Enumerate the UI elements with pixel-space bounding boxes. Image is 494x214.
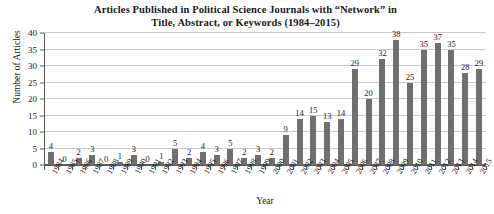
bar	[435, 43, 441, 165]
bar-slot: 2	[237, 33, 251, 165]
bar-slot: 29	[472, 33, 486, 165]
bar-slot: 1	[155, 33, 169, 165]
bar-value-label: 5	[228, 138, 232, 148]
bar	[407, 83, 413, 166]
x-axis-tick-mark	[362, 166, 363, 170]
x-axis-tick-mark	[72, 166, 73, 170]
x-axis-tick-mark	[196, 166, 197, 170]
bar	[393, 40, 399, 165]
bar-slot: 3	[127, 33, 141, 165]
bar-slot: 0	[99, 33, 113, 165]
bar-slot: 3	[85, 33, 99, 165]
bar-slot: 38	[389, 33, 403, 165]
y-axis-line	[44, 33, 45, 166]
bar-value-label: 3	[215, 144, 219, 154]
x-axis-tick-mark	[182, 166, 183, 170]
bar-value-label: 9	[284, 124, 288, 134]
bar	[448, 50, 454, 166]
y-axis-tick-labels: 0510152025303540	[0, 0, 44, 166]
bar	[324, 122, 330, 165]
x-axis-tick-mark	[445, 166, 446, 170]
bar-value-label: 2	[242, 147, 246, 157]
bar-value-label: 1	[118, 151, 122, 161]
bar-slot: 2	[182, 33, 196, 165]
bar-slot: 5	[168, 33, 182, 165]
x-axis-tick-mark	[251, 166, 252, 170]
bar-value-label: 14	[295, 108, 304, 118]
bar-series: 4023013015243523291415131429203238253537…	[44, 33, 486, 165]
bar-slot: 28	[458, 33, 472, 165]
bar-slot: 13	[320, 33, 334, 165]
bar	[379, 59, 385, 165]
x-axis-tick-mark	[279, 166, 280, 170]
x-axis-tick-mark	[417, 166, 418, 170]
chart-title-line-2: Title, Abstract, or Keywords (1984–2015)	[0, 16, 491, 29]
bar-value-label: 5	[173, 138, 177, 148]
bar-slot: 0	[141, 33, 155, 165]
x-axis-tick-mark	[334, 166, 335, 170]
x-axis-tick-mark	[458, 166, 459, 170]
bar-slot: 20	[362, 33, 376, 165]
x-axis-tick-mark	[99, 166, 100, 170]
bar-slot: 2	[72, 33, 86, 165]
y-axis-tick-label: 10	[28, 127, 37, 137]
bar-value-label: 13	[323, 111, 332, 121]
bar-value-label: 29	[351, 58, 360, 68]
bar-slot: 2	[265, 33, 279, 165]
bar	[297, 119, 303, 165]
chart-title: Articles Published in Political Science …	[0, 3, 491, 29]
bar-slot: 9	[279, 33, 293, 165]
x-axis-tick-mark	[306, 166, 307, 170]
x-axis-tick-mark	[389, 166, 390, 170]
bar-value-label: 3	[132, 144, 136, 154]
x-axis-tick-mark	[293, 166, 294, 170]
x-axis-tick-mark	[85, 166, 86, 170]
plot-area: 4023013015243523291415131429203238253537…	[44, 33, 486, 165]
bar-slot: 25	[403, 33, 417, 165]
bar-slot: 3	[251, 33, 265, 165]
bar-slot: 32	[376, 33, 390, 165]
bar	[421, 50, 427, 166]
x-axis-title: Year	[44, 196, 486, 206]
x-axis-tick-mark	[348, 166, 349, 170]
x-axis-tick-mark	[265, 166, 266, 170]
y-axis-tick-label: 15	[28, 111, 37, 121]
bar-value-label: 35	[420, 39, 429, 49]
bar-slot: 35	[417, 33, 431, 165]
y-axis-tick-label: 0	[33, 160, 38, 170]
x-axis-tick-mark	[320, 166, 321, 170]
bar	[310, 116, 316, 166]
bar-value-label: 2	[76, 147, 80, 157]
bar-value-label: 29	[475, 58, 484, 68]
bar-value-label: 35	[447, 39, 456, 49]
bar	[462, 73, 468, 165]
bar	[352, 69, 358, 165]
x-axis-tick-mark	[44, 166, 45, 170]
bar-value-label: 4	[49, 141, 53, 151]
y-axis-tick-label: 40	[28, 28, 37, 38]
x-axis-tick-mark	[155, 166, 156, 170]
x-axis-tick-mark	[58, 166, 59, 170]
bar-slot: 5	[224, 33, 238, 165]
bar	[338, 119, 344, 165]
y-axis-tick-label: 20	[28, 94, 37, 104]
bar-value-label: 3	[90, 144, 94, 154]
bar-slot: 37	[431, 33, 445, 165]
bar	[366, 99, 372, 165]
bar-slot: 1	[113, 33, 127, 165]
bar-value-label: 32	[378, 48, 387, 58]
y-axis-tick-label: 25	[28, 78, 37, 88]
x-axis-tick-mark	[224, 166, 225, 170]
x-axis-tick-mark	[168, 166, 169, 170]
chart-title-line-1: Articles Published in Political Science …	[0, 3, 491, 16]
bar-slot: 3	[210, 33, 224, 165]
bar-value-label: 2	[270, 147, 274, 157]
bar	[476, 69, 482, 165]
bar-value-label: 37	[433, 32, 442, 42]
y-axis-tick-label: 5	[33, 144, 38, 154]
x-axis-tick-mark	[237, 166, 238, 170]
bar-slot: 4	[196, 33, 210, 165]
bar-slot: 14	[334, 33, 348, 165]
bar-slot: 4	[44, 33, 58, 165]
